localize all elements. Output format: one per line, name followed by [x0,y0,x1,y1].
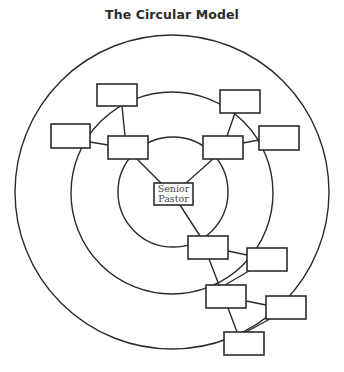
connector [246,301,266,305]
connector [122,106,125,136]
node-box [247,248,287,271]
node-box [266,296,306,319]
connector [228,308,237,332]
connector [225,271,249,285]
node-box [51,124,90,148]
connector [228,251,247,255]
node-box [206,285,246,308]
node-box [188,236,228,259]
senior-pastor-line2: Pastor [154,194,193,204]
connector [137,159,161,183]
connector [246,319,270,332]
node-box [259,126,299,150]
node-box [97,84,137,106]
senior-pastor-label: Senior Pastor [154,184,193,204]
connector [90,142,108,145]
connector [180,205,200,236]
connector [209,259,219,285]
node-box [224,332,264,355]
connector [186,159,213,183]
node-box [203,136,243,159]
connector [227,113,235,136]
connector [243,140,259,143]
nodes [51,84,306,355]
node-box [220,90,260,113]
node-box [108,136,148,159]
